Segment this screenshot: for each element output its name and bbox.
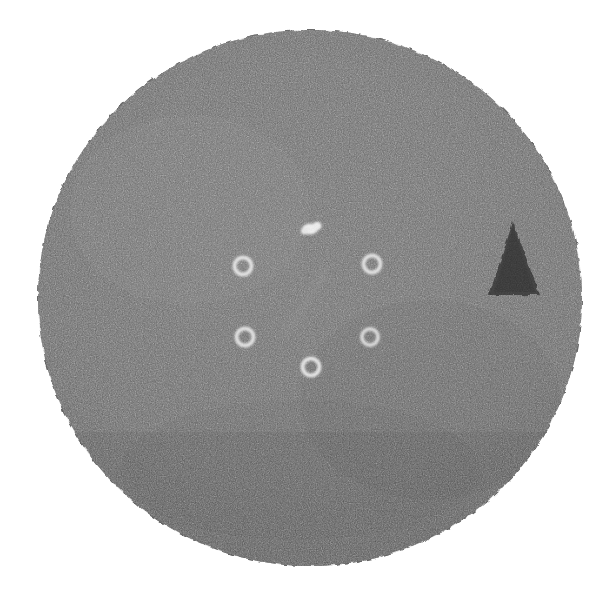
image-canvas <box>0 0 612 599</box>
circular-field-image <box>0 0 612 599</box>
